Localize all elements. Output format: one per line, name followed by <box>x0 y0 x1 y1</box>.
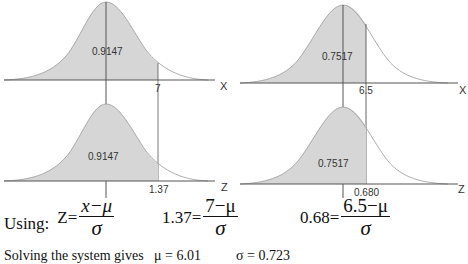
panel-bottom-left: 0.9147 1.37 Z <box>4 104 228 195</box>
fraction: 7−μ σ <box>203 196 237 239</box>
formula-lhs: Z <box>57 208 67 228</box>
shaded-area <box>240 5 366 83</box>
formula-lhs: 1.37 <box>162 208 192 228</box>
area-label: 0.9147 <box>88 151 119 162</box>
cutoff-label: 7 <box>155 83 161 94</box>
area-label: 0.9147 <box>92 46 123 57</box>
formula-general: Using: Z = x−μ σ <box>4 196 114 239</box>
shaded-area <box>4 2 158 80</box>
denominator: σ <box>360 217 370 239</box>
formula-eq1: 1.37 = 7−μ σ <box>162 196 238 239</box>
formula-lhs: 0.68 <box>300 208 330 228</box>
area-label: 0.7517 <box>322 51 353 62</box>
formula-eq: = <box>68 208 78 228</box>
shaded-area <box>4 104 158 181</box>
axis-label: Z <box>458 183 465 195</box>
fraction: 6.5−μ σ <box>341 196 390 239</box>
numerator: 7−μ <box>203 196 237 217</box>
formula-eq2: 0.68 = 6.5−μ σ <box>300 196 390 239</box>
cutoff-label: 6.5 <box>359 85 373 96</box>
fraction: x−μ σ <box>79 196 114 239</box>
numerator: 6.5−μ <box>341 196 390 217</box>
denominator: σ <box>92 217 102 239</box>
formula-eq: = <box>192 208 202 228</box>
solution-text: Solving the system gives μ = 6.01 σ = 0.… <box>4 248 290 264</box>
panel-bottom-right: 0.7517 0.680 Z <box>240 107 465 198</box>
area-label: 0.7517 <box>318 158 349 169</box>
axis-label: Z <box>221 181 228 193</box>
using-label: Using: <box>4 214 49 234</box>
formula-eq: = <box>330 208 340 228</box>
shaded-area <box>240 107 366 184</box>
numerator: x−μ <box>79 196 114 217</box>
denominator: σ <box>215 217 225 239</box>
cutoff-label: 1.37 <box>149 184 169 195</box>
axis-label: X <box>459 84 467 96</box>
axis-label: X <box>220 80 228 92</box>
